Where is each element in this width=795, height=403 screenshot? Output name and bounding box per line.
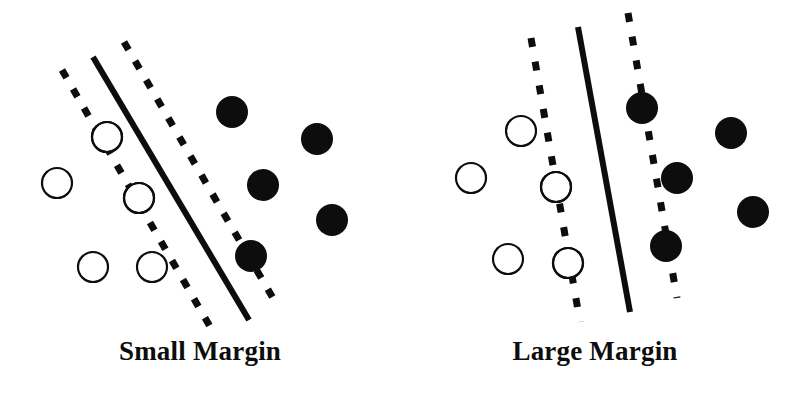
panel-small-margin: Small Margin [0,0,400,403]
panel-large-margin: Large Margin [395,0,795,403]
data-point-negative [137,252,167,282]
data-point-negative [42,168,72,198]
data-point-positive [216,96,248,128]
data-point-positive [626,92,658,124]
plot-small-margin [0,0,400,345]
data-point-positive [301,123,333,155]
data-point-positive [650,230,682,262]
svm-margin-figure: Small Margin Large Margin [0,0,795,403]
data-point-positive [715,117,747,149]
data-point-negative [78,252,108,282]
data-point-negative [456,163,486,193]
data-point-positive [247,169,279,201]
data-point-negative [493,244,523,274]
data-point-positive [316,204,348,236]
data-point-negative [506,116,536,146]
decision-boundary-line [578,27,630,312]
data-point-positive [235,240,267,272]
plot-large-margin [395,0,795,345]
decision-boundary-line [93,57,249,320]
caption-large-margin: Large Margin [395,336,795,367]
data-point-positive [661,162,693,194]
data-point-positive [737,196,769,228]
caption-small-margin: Small Margin [0,336,400,367]
